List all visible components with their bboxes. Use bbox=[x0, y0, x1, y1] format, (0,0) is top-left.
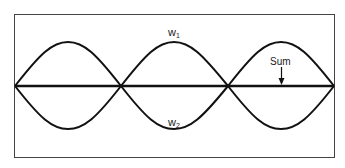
wave-w1-label: w1 bbox=[167, 26, 180, 39]
wave-w2-label: w2 bbox=[167, 116, 180, 129]
wave-diagram: w1 w2 Sum bbox=[0, 0, 345, 168]
sum-arrow-icon bbox=[279, 67, 285, 85]
sum-label: Sum bbox=[270, 56, 291, 67]
